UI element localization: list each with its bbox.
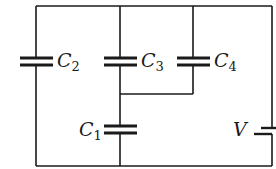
label-c1: C1 [79, 120, 102, 142]
capacitor-c3-icon [104, 58, 137, 65]
label-c3: C3 [141, 51, 164, 73]
capacitor-c1-icon [104, 126, 137, 133]
label-c2: C2 [57, 51, 80, 73]
battery-icon [254, 128, 276, 134]
capacitor-c4-icon [177, 58, 210, 65]
capacitor-c2-icon [20, 58, 53, 65]
label-c4: C4 [214, 51, 237, 73]
circuit-diagram [0, 0, 276, 169]
label-v: V [233, 120, 247, 139]
